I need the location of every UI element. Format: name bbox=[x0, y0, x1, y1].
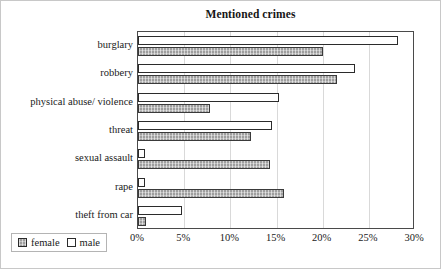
bar-group-physical-abuse-violence bbox=[138, 89, 413, 117]
bar-male bbox=[138, 93, 279, 102]
bar-male bbox=[138, 36, 398, 45]
gridline-30pct bbox=[415, 32, 416, 228]
bar-male bbox=[138, 178, 145, 187]
x-axis-tick-label: 30% bbox=[404, 232, 423, 243]
bar-group-rape bbox=[138, 173, 413, 201]
bar-female bbox=[138, 189, 284, 198]
y-axis-label: sexual assault bbox=[1, 152, 133, 164]
x-axis-tick-label: 5% bbox=[176, 232, 190, 243]
y-axis-category-labels: burglaryrobberyphysical abuse/ violencet… bbox=[1, 31, 133, 229]
bar-female bbox=[138, 217, 146, 226]
bar-rows bbox=[138, 32, 413, 228]
y-axis-label: burglary bbox=[1, 39, 133, 51]
x-axis-tick-label: 25% bbox=[358, 232, 377, 243]
y-axis-label: rape bbox=[1, 181, 133, 193]
legend-label: male bbox=[80, 237, 100, 248]
bar-female bbox=[138, 160, 270, 169]
bar-female bbox=[138, 132, 251, 141]
bar-male bbox=[138, 149, 145, 158]
chart-legend: femalemale bbox=[11, 233, 107, 252]
bar-group-burglary bbox=[138, 32, 413, 60]
bar-female bbox=[138, 75, 337, 84]
legend-swatch-female-icon bbox=[18, 238, 27, 247]
chart-title: Mentioned crimes bbox=[1, 8, 441, 20]
x-axis-tick-label: 15% bbox=[266, 232, 285, 243]
y-axis-label: physical abuse/ violence bbox=[1, 96, 133, 108]
bar-male bbox=[138, 206, 182, 215]
y-axis-label: robbery bbox=[1, 67, 133, 79]
bar-female bbox=[138, 104, 210, 113]
bar-group-robbery bbox=[138, 60, 413, 88]
y-axis-label: threat bbox=[1, 124, 133, 136]
x-axis-tick-label: 0% bbox=[130, 232, 144, 243]
legend-item-female: female bbox=[18, 237, 60, 248]
bar-female bbox=[138, 47, 323, 56]
legend-label: female bbox=[31, 237, 60, 248]
bar-group-sexual-assault bbox=[138, 145, 413, 173]
legend-swatch-male-icon bbox=[67, 238, 76, 247]
bar-group-threat bbox=[138, 117, 413, 145]
plot-area bbox=[137, 31, 414, 229]
chart-figure: Mentioned crimes burglaryrobberyphysical… bbox=[0, 0, 441, 269]
x-axis-tick-label: 20% bbox=[312, 232, 331, 243]
x-axis-tick-label: 10% bbox=[220, 232, 239, 243]
bar-group-theft-from-car bbox=[138, 202, 413, 230]
x-axis-tick-labels: 0%5%10%15%20%25%30% bbox=[137, 232, 414, 248]
legend-item-male: male bbox=[67, 237, 100, 248]
bar-male bbox=[138, 121, 272, 130]
bar-male bbox=[138, 64, 355, 73]
y-axis-label: theft from car bbox=[1, 209, 133, 221]
